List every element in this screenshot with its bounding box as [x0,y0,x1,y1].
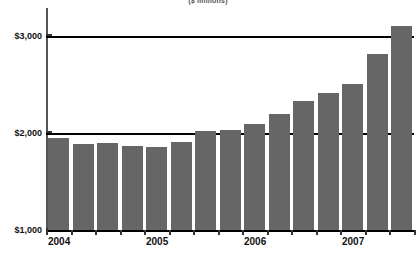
x-tick-label-2005: 2005 [146,236,168,247]
chart-title: ($ millions) [0,0,416,5]
x-tick-mark [291,230,293,235]
bar [146,147,167,230]
bar [171,142,192,230]
x-tick-label-2004: 2004 [48,236,70,247]
bar [195,131,216,230]
bar [122,146,143,230]
gridline-1000 [46,230,414,232]
x-tick-mark [218,230,220,235]
x-tick-mark [365,230,367,235]
x-tick-mark [414,230,416,235]
x-tick-mark [46,230,48,235]
y-tick-label-2000: $2,000 [0,128,42,138]
bar [367,54,388,230]
bar [318,93,339,230]
bar [342,84,363,230]
bar [220,130,241,230]
bar [48,138,69,230]
x-tick-mark [193,230,195,235]
x-tick-mark [340,230,342,235]
x-tick-mark [169,230,171,235]
x-tick-mark [144,230,146,235]
x-tick-mark [267,230,269,235]
bar [391,26,412,230]
bar [97,143,118,230]
bar [73,144,94,230]
gridline-3000 [46,36,414,38]
y-tick-label-3000: $3,000 [0,31,42,41]
x-tick-mark [389,230,391,235]
bar [244,124,265,230]
bar [269,114,290,230]
x-tick-label-2007: 2007 [342,236,364,247]
bar [293,101,314,230]
y-tick-label-1000: $1,000 [0,225,42,235]
plot-area [46,8,414,230]
x-tick-mark [316,230,318,235]
bar-chart: ($ millions) $3,000$2,000$1,000 20042005… [0,0,416,260]
x-tick-label-2006: 2006 [244,236,266,247]
x-tick-mark [95,230,97,235]
x-tick-mark [242,230,244,235]
x-tick-mark [120,230,122,235]
x-tick-mark [71,230,73,235]
